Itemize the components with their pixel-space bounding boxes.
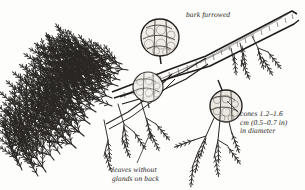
botanical-figure: bark furrowed cones 1.2–1.6 cm (0.5–0.7 … (0, 0, 305, 190)
cone-size-label: cones 1.2–1.6 cm (0.5–0.7 in) in diamete… (240, 110, 287, 136)
illustration-canvas (0, 0, 305, 190)
leaves-glands-label: leaves without glands on back (112, 166, 159, 183)
bark-furrowed-label: bark furrowed (186, 11, 230, 20)
leaves-glands-line-2: glands on back (112, 175, 159, 184)
cone-lower-right (210, 80, 242, 122)
cone-middle (133, 72, 163, 108)
cone-size-line-3: in diameter (240, 127, 287, 136)
lower-right-branchlets (173, 118, 242, 187)
cone-upper (141, 19, 179, 64)
